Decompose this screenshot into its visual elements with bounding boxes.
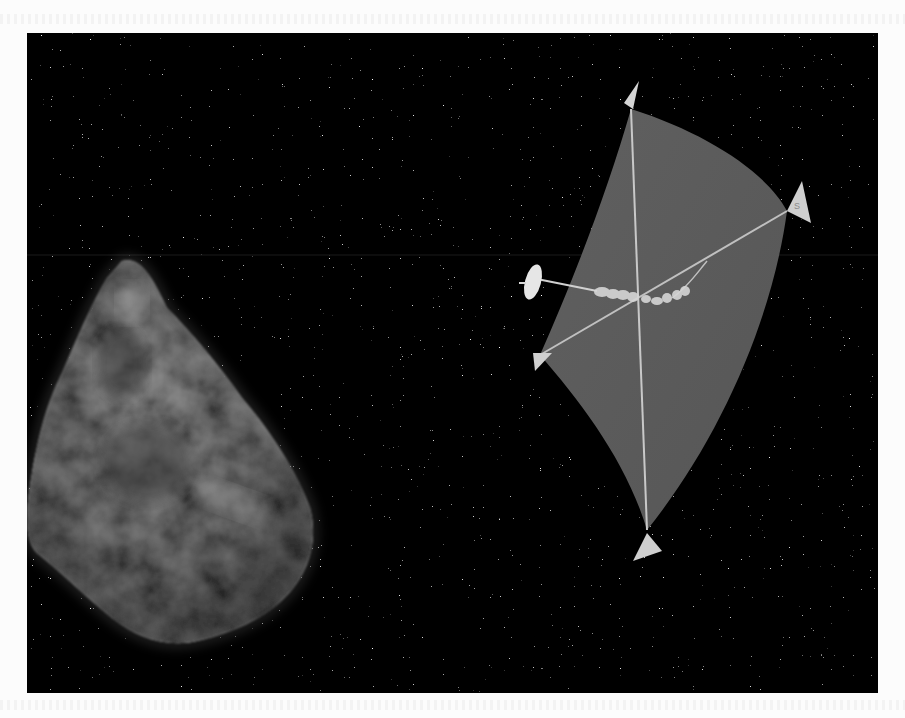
- bleed-through-text-top: [0, 14, 905, 24]
- bleed-through-text-bottom: [0, 700, 905, 710]
- illustration-canvas: S: [27, 33, 878, 693]
- right-vane-mark: S: [794, 201, 800, 211]
- space-illustration: S: [27, 33, 878, 693]
- scanned-page: S: [0, 0, 905, 718]
